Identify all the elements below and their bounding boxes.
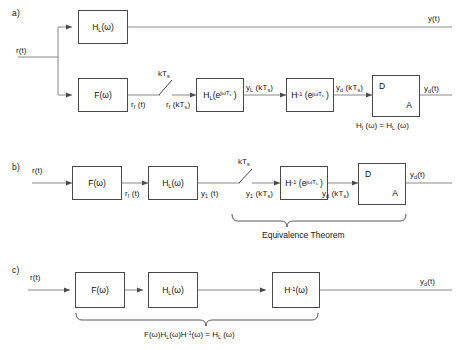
- signal-yd-kts-b: yd (kTs): [322, 189, 349, 199]
- signal-yl-kts-a: yL (kTs): [246, 83, 273, 93]
- block-f-omega-c[interactable]: F(ω): [75, 272, 125, 308]
- signal-yd-t-b: yd(t): [410, 170, 425, 180]
- signal-yd-t-a: yd(t): [424, 84, 439, 94]
- da-digital-label-b: D: [365, 169, 371, 179]
- panel-label-b: b): [12, 162, 20, 172]
- block-h-inv-omega-c[interactable]: H-1(ω): [272, 272, 320, 308]
- da-analog-label-a: A: [406, 100, 412, 110]
- signal-rf-t-b: rf (t): [125, 189, 140, 199]
- block-h-inv-discrete-b[interactable]: H-1 (ejωTs ): [280, 166, 328, 200]
- figure-root: a) r(t) HL(ω) y(t) F(ω) rf (t) kTs rf (k…: [0, 0, 460, 350]
- sampler-label-b: kTs: [238, 157, 250, 167]
- signal-r-t-c: r(t): [30, 273, 41, 282]
- signal-r-t-b: r(t): [32, 166, 43, 175]
- panel-label-a: a): [12, 8, 20, 18]
- block-hl-omega-a[interactable]: HL(ω): [78, 10, 128, 44]
- da-digital-label-a: D: [379, 81, 385, 91]
- da-analog-label-b: A: [392, 188, 398, 198]
- equation-panel-a: HI (ω) = HL (ω): [356, 121, 409, 131]
- signal-r-t-a: r(t): [16, 46, 27, 55]
- panel-label-c: c): [12, 265, 19, 275]
- signal-rf-t-a: rf (t): [131, 100, 146, 110]
- brace-caption-c: F(ω)HL(ω)H-1(ω) = HL (ω): [144, 330, 235, 340]
- block-hl-omega-c[interactable]: HL(ω): [148, 272, 198, 308]
- block-hl-discrete-a[interactable]: HL(ejωTs ): [196, 78, 244, 112]
- signal-y1-kts-b: y1 (kTs): [246, 189, 273, 199]
- signal-y-t: y(t): [428, 14, 440, 23]
- signal-rf-kts-a: rf (kTs): [166, 100, 190, 110]
- block-f-omega-a[interactable]: F(ω): [78, 78, 128, 112]
- sampler-label-a: kTs: [158, 69, 170, 79]
- signal-y1-t-b: y1 (t): [201, 189, 218, 199]
- signal-yd-kts-a: yd (kTs): [336, 83, 363, 93]
- brace-caption-b: Equivalence Theorem: [262, 230, 345, 240]
- block-da-converter-b[interactable]: D A: [358, 163, 406, 205]
- block-f-omega-b[interactable]: F(ω): [72, 166, 122, 200]
- block-da-converter-a[interactable]: D A: [372, 75, 420, 117]
- block-hl-omega-b[interactable]: HL(ω): [148, 166, 198, 200]
- signal-yd-t-c: yd(t): [420, 277, 435, 287]
- block-h-inv-discrete-a[interactable]: H-1 (ejωTs ): [286, 78, 334, 112]
